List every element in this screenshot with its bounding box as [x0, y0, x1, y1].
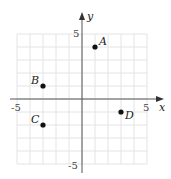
point-label-d: D	[124, 109, 134, 122]
y-axis-arrow-icon	[79, 12, 85, 20]
y-tick-min: -5	[68, 160, 78, 171]
x-tick-min: -5	[11, 102, 21, 113]
x-tick-max: 5	[143, 102, 149, 113]
point-label-a: A	[98, 35, 107, 48]
point-label-b: B	[30, 74, 39, 87]
point-a	[92, 44, 97, 49]
point-b	[40, 83, 45, 88]
y-tick-max: 5	[73, 28, 79, 39]
x-axis-label: x	[159, 101, 166, 114]
point-d	[118, 109, 123, 114]
point-label-c: C	[31, 113, 40, 126]
y-axis-label: y	[86, 10, 94, 23]
coordinate-plane: x y -5 5 5 -5 ABCD	[0, 0, 171, 179]
point-c	[40, 122, 45, 127]
